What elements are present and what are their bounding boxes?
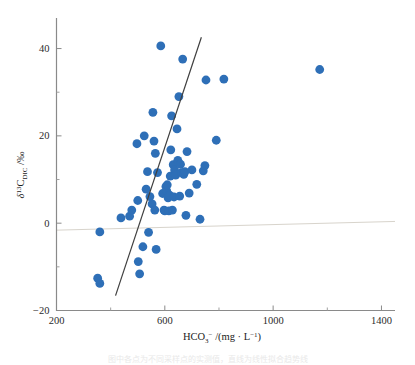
y-tick-label: 20 bbox=[39, 130, 50, 141]
data-point bbox=[133, 196, 142, 205]
data-point bbox=[138, 242, 147, 251]
data-point bbox=[150, 137, 159, 146]
data-point bbox=[212, 136, 221, 145]
data-point bbox=[149, 108, 158, 117]
x-axis-title: HCO3− /(mg · L−1) bbox=[183, 331, 262, 345]
data-point bbox=[117, 214, 126, 223]
x-tick-label: 600 bbox=[157, 315, 173, 326]
data-point bbox=[95, 228, 104, 237]
data-point bbox=[202, 76, 211, 85]
data-point bbox=[135, 269, 144, 278]
svg-text:HCO3− /(mg · L−1): HCO3− /(mg · L−1) bbox=[183, 331, 262, 345]
data-point bbox=[142, 185, 151, 194]
y-axis-tick-labels: −2002040 bbox=[33, 43, 49, 316]
data-point bbox=[95, 279, 104, 288]
y-tick-label: 0 bbox=[44, 218, 49, 229]
y-axis-title: δ13CDIC /‰ bbox=[15, 151, 29, 199]
data-point bbox=[178, 55, 187, 64]
data-point bbox=[201, 161, 210, 170]
y-tick-label: 40 bbox=[39, 43, 50, 54]
data-point bbox=[192, 180, 201, 189]
data-point bbox=[175, 192, 184, 201]
y-tick-label: −20 bbox=[33, 305, 49, 316]
scatter-chart-figure: −2002040 20060010001400 δ13CDIC /‰ HCO3−… bbox=[0, 0, 415, 365]
data-point bbox=[166, 145, 175, 154]
data-point bbox=[163, 180, 172, 189]
chart-svg: −2002040 20060010001400 δ13CDIC /‰ HCO3−… bbox=[0, 0, 415, 365]
data-point bbox=[183, 147, 192, 156]
data-point bbox=[315, 65, 324, 74]
data-point bbox=[152, 245, 161, 254]
data-point bbox=[176, 160, 185, 169]
svg-text:δ13CDIC /‰: δ13CDIC /‰ bbox=[15, 151, 29, 199]
data-point bbox=[133, 139, 142, 148]
data-point bbox=[188, 166, 197, 175]
data-point bbox=[143, 167, 152, 176]
figure-caption: 图中各点为不同采样点的实测值，直线为线性拟合趋势线 bbox=[0, 355, 415, 365]
data-point bbox=[127, 206, 136, 215]
x-tick-label: 1000 bbox=[263, 315, 284, 326]
x-axis-tick-labels: 20060010001400 bbox=[49, 315, 392, 326]
data-point bbox=[134, 257, 143, 266]
x-tick-label: 1400 bbox=[371, 315, 392, 326]
data-point bbox=[168, 206, 177, 215]
data-point bbox=[182, 211, 191, 220]
data-point bbox=[150, 206, 159, 215]
data-point bbox=[151, 149, 160, 158]
plot-area-background bbox=[56, 18, 395, 311]
data-point bbox=[196, 215, 205, 224]
data-point bbox=[156, 42, 165, 51]
data-point bbox=[173, 124, 182, 133]
x-tick-label: 200 bbox=[49, 315, 65, 326]
data-point bbox=[144, 228, 153, 237]
data-point bbox=[185, 189, 194, 198]
data-point bbox=[140, 131, 149, 140]
data-point bbox=[219, 75, 228, 84]
